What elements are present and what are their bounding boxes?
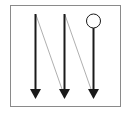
start-circle-icon [87, 14, 101, 28]
scan-order-icon [0, 0, 126, 115]
